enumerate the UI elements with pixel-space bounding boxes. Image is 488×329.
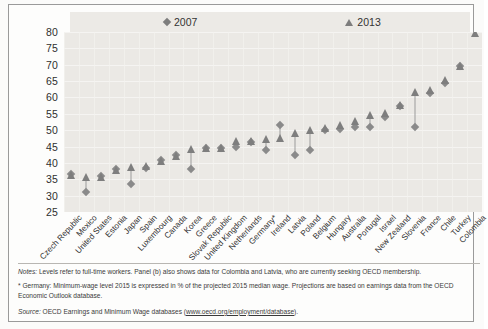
data-point-2013 (247, 137, 255, 145)
source-label: Source: (18, 308, 41, 315)
data-point-2007 (307, 147, 313, 153)
grid-line-vertical (183, 32, 184, 212)
source-link[interactable]: www.oecd.org/employment/database (186, 308, 294, 315)
diamond-marker-icon (163, 18, 171, 26)
data-point-2013 (202, 144, 210, 152)
grid-line-vertical (303, 32, 304, 212)
y-axis-tick: 35 (46, 174, 58, 185)
notes-text: Levels refer to full-time workers. Panel… (37, 268, 421, 275)
grid-line-vertical (378, 32, 379, 212)
data-point-2013 (142, 162, 150, 170)
note-germany: * Germany: Minimum-wage level 2015 is ex… (18, 281, 480, 301)
y-axis-tick: 25 (46, 207, 58, 218)
grid-line-vertical (169, 32, 170, 212)
y-axis-tick: 80 (46, 27, 58, 38)
source-tail: ). (294, 308, 298, 315)
grid-line-vertical (363, 32, 364, 212)
data-point-2013 (396, 101, 404, 109)
grid-line-vertical (422, 32, 423, 212)
data-point-2013 (306, 126, 314, 134)
y-axis: 807570656055504540353025 (18, 32, 62, 212)
grid-line-vertical (273, 32, 274, 212)
data-point-2013 (172, 152, 180, 160)
notes-label: Notes: (18, 268, 37, 275)
data-point-2013 (456, 62, 464, 70)
y-axis-tick: 60 (46, 92, 58, 103)
grid-line-vertical (64, 32, 65, 212)
data-point-2013 (411, 88, 419, 96)
data-point-2007 (128, 181, 134, 187)
data-point-2007 (367, 124, 373, 130)
notes-divider (18, 263, 480, 264)
data-point-2013 (336, 121, 344, 129)
data-point-2007 (292, 152, 298, 158)
grid-line-vertical (437, 32, 438, 212)
data-point-2013 (366, 111, 374, 119)
grid-line-vertical (94, 32, 95, 212)
legend-label-2007: 2007 (174, 16, 197, 28)
grid-line-vertical (213, 32, 214, 212)
data-point-2013 (112, 166, 120, 174)
data-point-2013 (291, 129, 299, 137)
y-axis-tick: 75 (46, 43, 58, 54)
note-general: Notes: Levels refer to full-time workers… (18, 267, 480, 277)
data-point-2013 (157, 157, 165, 165)
grid-line-vertical (348, 32, 349, 212)
plot-canvas (64, 32, 482, 212)
legend-item-2007: 2007 (164, 16, 197, 28)
data-point-2013 (232, 137, 240, 145)
grid-line-vertical (288, 32, 289, 212)
triangle-marker-icon (345, 19, 353, 26)
grid-line-vertical (124, 32, 125, 212)
grid-line-vertical (139, 32, 140, 212)
figure-container: 2007 2013 807570656055504540353025 Czech… (8, 4, 474, 322)
data-point-2013 (381, 109, 389, 117)
grid-line-vertical (243, 32, 244, 212)
data-point-2013 (82, 173, 90, 181)
grid-line-vertical (258, 32, 259, 212)
data-point-2013 (217, 144, 225, 152)
data-point-2013 (67, 171, 75, 179)
y-axis-tick: 50 (46, 125, 58, 136)
data-point-2013 (471, 32, 479, 37)
legend-label-2013: 2013 (357, 16, 380, 28)
data-point-2007 (412, 124, 418, 130)
data-point-2013 (127, 163, 135, 171)
data-point-2013 (187, 145, 195, 153)
data-point-2007 (263, 147, 269, 153)
chart-area: 2007 2013 807570656055504540353025 Czech… (18, 10, 482, 265)
note-source: Source: OECD Earnings and Minimum Wage d… (18, 307, 480, 317)
y-axis-tick: 45 (46, 141, 58, 152)
data-point-2013 (276, 134, 284, 142)
grid-line-vertical (333, 32, 334, 212)
data-point-2007 (188, 166, 194, 172)
grid-line-vertical (318, 32, 319, 212)
data-point-2013 (441, 76, 449, 84)
plot-wrapper: 807570656055504540353025 (18, 32, 482, 212)
grid-line-vertical (228, 32, 229, 212)
source-text: OECD Earnings and Minimum Wage databases… (41, 308, 186, 315)
grid-line-vertical (407, 32, 408, 212)
grid-line-vertical (467, 32, 468, 212)
y-axis-tick: 40 (46, 158, 58, 169)
grid-line-vertical (109, 32, 110, 212)
y-axis-tick: 55 (46, 109, 58, 120)
data-point-2007 (83, 189, 89, 195)
data-point-2013 (97, 173, 105, 181)
grid-line-vertical (79, 32, 80, 212)
notes-block: Notes: Levels refer to full-time workers… (18, 267, 480, 321)
data-point-2013 (426, 86, 434, 94)
grid-line-vertical (154, 32, 155, 212)
y-axis-tick: 65 (46, 76, 58, 87)
data-point-2007 (277, 122, 283, 128)
grid-line-vertical (198, 32, 199, 212)
legend-item-2013: 2013 (345, 16, 380, 28)
y-axis-tick: 70 (46, 59, 58, 70)
grid-line-vertical (392, 32, 393, 212)
data-point-2013 (262, 135, 270, 143)
y-axis-tick: 30 (46, 190, 58, 201)
x-axis-label: Czech Republic (39, 214, 84, 262)
x-axis-labels: Czech RepublicMexicoUnited StatesEstonia… (64, 214, 482, 266)
chart-legend: 2007 2013 (70, 12, 470, 32)
